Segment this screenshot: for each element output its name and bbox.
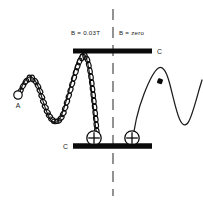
start-point-label-A: A: [16, 102, 21, 109]
smooth-trajectory-right: [133, 67, 203, 144]
helical-coil-loops: [17, 52, 100, 134]
start-point-A-marker: [14, 91, 22, 99]
field-label-left: B = 0.03T: [71, 29, 100, 36]
trajectory-dot-marker: [157, 78, 164, 85]
charge-symbol-right: [125, 131, 139, 145]
figure-canvas: B = 0.03T B = zero C C A: [0, 0, 203, 204]
helical-trajectory-guide: [19, 53, 97, 134]
physics-diagram-figure: B = 0.03T B = zero C C A: [0, 0, 203, 204]
bottom-plate-overlay: [73, 144, 152, 149]
charge-symbol-left: [87, 131, 101, 145]
plate-label-bottom: C: [63, 143, 68, 150]
field-label-right: B = zero: [119, 29, 145, 36]
plate-label-top: C: [157, 48, 162, 55]
